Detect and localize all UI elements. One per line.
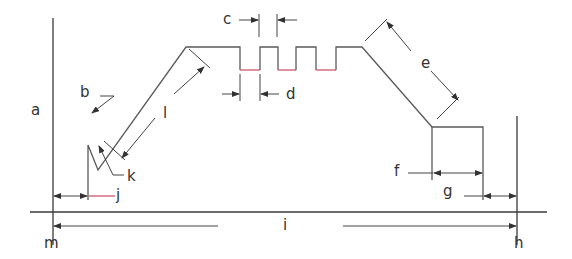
label-j: j xyxy=(116,188,120,203)
label-f: f xyxy=(394,164,399,179)
dimension-c xyxy=(239,14,297,37)
label-k: k xyxy=(127,169,136,184)
label-d: d xyxy=(286,87,296,102)
label-i: i xyxy=(283,218,287,233)
label-a: a xyxy=(31,103,40,118)
dimension-l xyxy=(104,49,210,160)
label-m: m xyxy=(44,236,59,251)
label-c: c xyxy=(223,12,231,27)
label-b: b xyxy=(80,85,90,100)
label-h: h xyxy=(514,236,524,251)
dimension-b xyxy=(92,96,114,113)
label-l: l xyxy=(163,106,167,121)
dimension-d xyxy=(222,74,279,101)
label-g: g xyxy=(443,184,453,199)
label-e: e xyxy=(421,56,430,71)
